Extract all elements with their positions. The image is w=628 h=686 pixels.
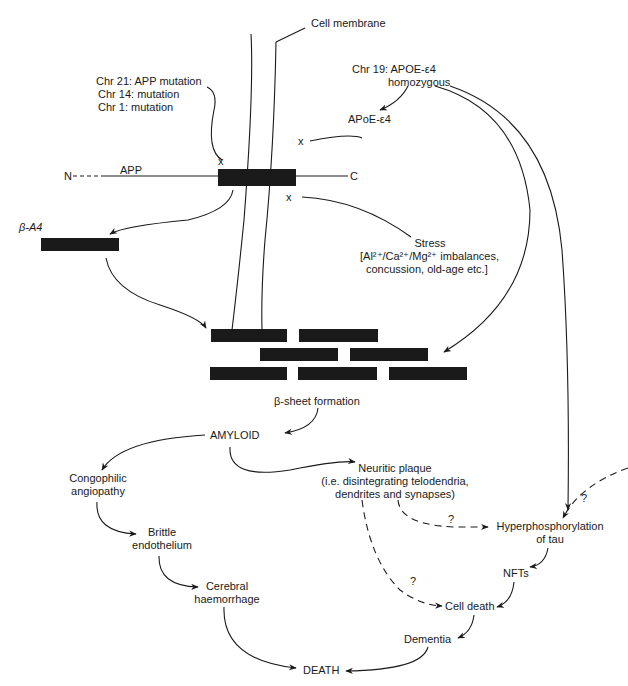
app-to-beta-arrow (110, 190, 233, 234)
neuritic-to-tau-dashed-arrow (398, 500, 488, 527)
apoe-site-x: x (298, 135, 304, 148)
neuritic-line3: dendrites and synapses) (320, 488, 470, 501)
cell-membrane-pointer (276, 28, 305, 42)
tau-to-nfts-arrow (530, 548, 548, 567)
stress-factors-line2: concussion, old-age etc.] (366, 263, 488, 276)
stress-factors-line1: [Al²⁺/Ca²⁺/Mg²⁺ imbalances, (360, 250, 499, 263)
cell-death-label: Cell death (445, 600, 495, 613)
sheet-bar-5 (210, 367, 287, 380)
chr21-label: Chr 21: APP mutation (96, 75, 200, 88)
beta-a4-label: β-A4 (19, 221, 42, 234)
neuritic-to-celldeath-dashed-arrow (362, 500, 442, 606)
chr19-to-apoe-arrow (380, 86, 408, 110)
c-terminus-label: C (350, 170, 358, 183)
beta-sheet-label: β-sheet formation (274, 395, 360, 408)
sheet-bar-4 (350, 348, 428, 361)
amyloid-to-congophilic-arrow (102, 435, 205, 470)
mutation-pointer (207, 87, 222, 160)
chr1-label: Chr 1: mutation (98, 101, 173, 114)
cell-membrane-label: Cell membrane (311, 17, 386, 30)
death-label: DEATH (303, 664, 339, 677)
question-mark-neuritic-death: ? (410, 575, 416, 588)
nfts-to-celldeath-arrow (497, 582, 514, 607)
apoe-pointer (310, 136, 362, 141)
question-mark-neuritic-tau: ? (448, 513, 454, 526)
chr14-label: Chr 14: mutation (98, 88, 179, 101)
amyloid-label: AMYLOID (210, 429, 260, 442)
cerebral-line1: Cerebral (190, 580, 264, 593)
stress-label: Stress (410, 237, 450, 250)
stress-site-x: x (286, 191, 292, 204)
beta-a4-bar (41, 238, 119, 251)
sheet-bar-1 (211, 329, 287, 342)
n-terminus-label: N (64, 170, 72, 183)
dementia-label: Dementia (404, 633, 451, 646)
sheet-bar-2 (299, 329, 378, 342)
sheet-bar-3 (260, 348, 338, 361)
diagram-canvas (0, 0, 628, 686)
mutation-site-x: x (218, 155, 224, 168)
sheet-to-amyloid-arrow (285, 408, 318, 433)
chr19-homozygous-label: homozygous (388, 76, 450, 89)
beta-to-sheet-arrow (106, 258, 206, 328)
brittle-line2: endothelium (126, 539, 198, 552)
unknown-to-tau-dashed-arrow (563, 468, 628, 518)
sheet-bar-7 (389, 367, 467, 380)
brittle-line1: Brittle (126, 526, 198, 539)
celldeath-to-dementia-arrow (458, 615, 474, 638)
congophilic-line2: angiopathy (60, 485, 136, 498)
apoe-label: APoE-ε4 (348, 113, 391, 126)
neuritic-line2: (i.e. disintegrating telodendria, (320, 475, 470, 488)
cerebral-line2: haemorrhage (190, 593, 264, 606)
nfts-label: NFTs (503, 567, 529, 580)
chr19-to-sheet-arrow (435, 86, 530, 352)
dementia-to-death-arrow (346, 647, 428, 671)
app-transmembrane-bar (218, 169, 296, 186)
neuritic-line1: Neuritic plaque (320, 462, 470, 475)
chr19-to-tau-arrow (450, 86, 568, 510)
cerebral-to-death-arrow (224, 607, 296, 668)
stress-pointer (302, 197, 411, 237)
congophilic-line1: Congophilic (60, 472, 136, 485)
app-label: APP (120, 164, 142, 177)
sheet-bar-6 (298, 367, 377, 380)
hyperphosphorylation-line1: Hyperphosphorylation (490, 520, 610, 533)
hyperphosphorylation-line2: of tau (490, 533, 610, 546)
question-mark-unknown-tau: ? (581, 492, 587, 505)
chr19-label: Chr 19: APOE-ε4 (352, 63, 436, 76)
